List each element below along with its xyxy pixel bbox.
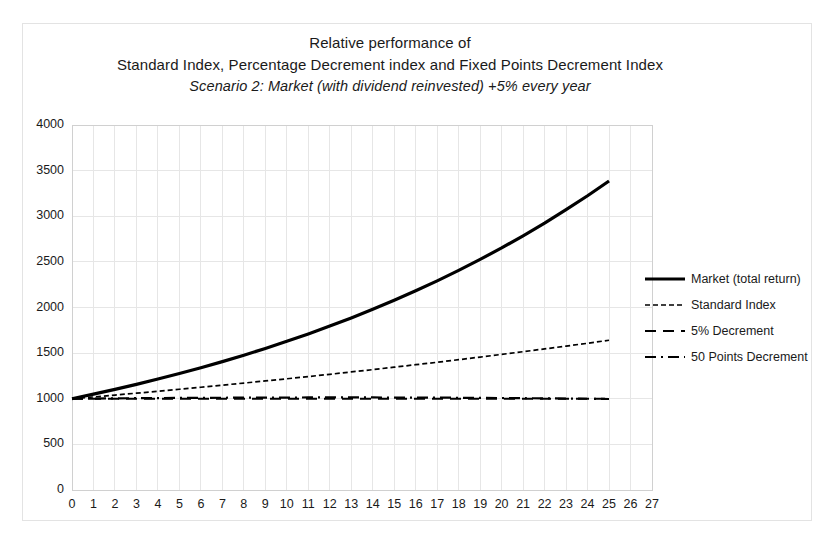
legend-item: Standard Index (645, 292, 835, 318)
y-tick-label: 3500 (20, 163, 64, 177)
x-tick-label: 5 (167, 497, 191, 511)
x-tick-label: 12 (318, 497, 342, 511)
x-tick-label: 15 (382, 497, 406, 511)
x-tick-label: 22 (533, 497, 557, 511)
gridlines (72, 125, 652, 490)
x-tick-label: 23 (554, 497, 578, 511)
legend-line-sample-icon (645, 324, 685, 338)
y-tick-label: 4000 (20, 117, 64, 131)
x-tick-label: 11 (296, 497, 320, 511)
legend-label: 50 Points Decrement (691, 350, 808, 364)
chart-figure: Relative performance of Standard Index, … (0, 0, 837, 544)
x-tick-label: 27 (640, 497, 664, 511)
y-tick-label: 500 (20, 436, 64, 450)
x-tick-label: 16 (404, 497, 428, 511)
x-tick-label: 2 (103, 497, 127, 511)
x-tick-label: 26 (619, 497, 643, 511)
legend-label: Market (total return) (691, 272, 801, 286)
x-tick-label: 9 (253, 497, 277, 511)
x-tick-label: 14 (361, 497, 385, 511)
x-tick-label: 0 (60, 497, 84, 511)
y-tick-label: 0 (20, 482, 64, 496)
x-tick-label: 1 (81, 497, 105, 511)
x-tick-label: 13 (339, 497, 363, 511)
x-tick-label: 19 (468, 497, 492, 511)
series-line-1 (72, 340, 609, 398)
x-tick-label: 24 (576, 497, 600, 511)
x-tick-label: 3 (124, 497, 148, 511)
x-tick-label: 20 (490, 497, 514, 511)
chart-legend: Market (total return)Standard Index5% De… (645, 266, 835, 370)
x-tick-label: 21 (511, 497, 535, 511)
y-tick-label: 3000 (20, 208, 64, 222)
legend-label: Standard Index (691, 298, 776, 312)
x-tick-label: 4 (146, 497, 170, 511)
series-lines (72, 181, 609, 399)
legend-line-sample-icon (645, 272, 685, 286)
legend-item: 5% Decrement (645, 318, 835, 344)
x-tick-label: 17 (425, 497, 449, 511)
legend-line-sample-icon (645, 298, 685, 312)
y-tick-label: 2000 (20, 300, 64, 314)
x-tick-label: 8 (232, 497, 256, 511)
series-line-0 (72, 181, 609, 399)
y-tick-label: 1000 (20, 391, 64, 405)
x-tick-label: 25 (597, 497, 621, 511)
x-tick-label: 18 (447, 497, 471, 511)
x-tick-label: 6 (189, 497, 213, 511)
legend-line-sample-icon (645, 350, 685, 364)
y-tick-label: 1500 (20, 345, 64, 359)
legend-item: 50 Points Decrement (645, 344, 835, 370)
legend-label: 5% Decrement (691, 324, 774, 338)
legend-item: Market (total return) (645, 266, 835, 292)
x-tick-label: 7 (210, 497, 234, 511)
y-tick-label: 2500 (20, 254, 64, 268)
x-tick-label: 10 (275, 497, 299, 511)
